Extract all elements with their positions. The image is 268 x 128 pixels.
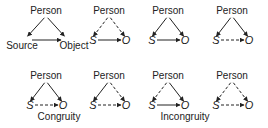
source-label: S <box>26 99 34 111</box>
person-label: Person <box>216 5 248 16</box>
balance-triangle-6 <box>93 83 124 105</box>
person-label: Person <box>152 70 184 81</box>
balance-triangle-2 <box>93 18 124 40</box>
balance-diagram: PersonSourceObjectPersonSOPersonSOPerson… <box>0 0 268 128</box>
person-label: Person <box>93 5 125 16</box>
person-to-source-solid-arrow <box>28 18 45 36</box>
person-label: Person <box>216 70 248 81</box>
balance-triangle-7 <box>152 83 183 105</box>
person-label: Person <box>93 70 125 81</box>
person-label: Person <box>30 5 62 16</box>
balance-triangle-5 <box>30 83 61 105</box>
balance-triangle-1 <box>28 18 65 40</box>
source-label: S <box>212 34 220 46</box>
person-to-object-solid-arrow <box>48 18 65 36</box>
object-label: O <box>122 99 131 111</box>
source-label: S <box>148 34 156 46</box>
balance-triangle-3 <box>152 18 183 40</box>
source-label: S <box>89 34 97 46</box>
object-label: O <box>122 34 131 46</box>
source-label: S <box>148 99 156 111</box>
balance-triangle-4 <box>216 18 247 40</box>
source-label: Source <box>6 40 38 51</box>
source-label: S <box>212 99 220 111</box>
object-label: O <box>59 99 68 111</box>
balance-triangle-8 <box>216 83 247 105</box>
person-label: Person <box>30 70 62 81</box>
object-label: O <box>245 34 254 46</box>
caption-incongruity: Incongruity <box>161 111 210 122</box>
source-label: S <box>89 99 97 111</box>
person-label: Person <box>152 5 184 16</box>
object-label: O <box>245 99 254 111</box>
object-label: Object <box>60 40 89 51</box>
caption-congruity: Congruity <box>38 111 81 122</box>
object-label: O <box>181 99 190 111</box>
object-label: O <box>181 34 190 46</box>
